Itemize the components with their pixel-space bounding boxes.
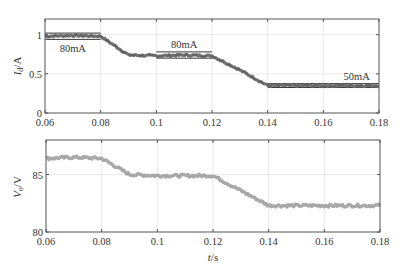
voltage-x-tick-label: 0.18 bbox=[371, 236, 389, 247]
voltage-y-axis-label: Vo/V bbox=[11, 176, 25, 198]
current-x-tick-label: 0.18 bbox=[370, 117, 388, 128]
current-panel: 0.060.080.10.120.140.160.18 00.51 80mA80… bbox=[11, 19, 388, 128]
current-band-label: 80mA bbox=[171, 39, 198, 50]
current-x-tick-label: 0.16 bbox=[314, 117, 332, 128]
current-y-tick-label: 0 bbox=[37, 108, 42, 119]
voltage-y-tick-labels: 8085 bbox=[33, 170, 44, 239]
current-y-tick-label: 1 bbox=[37, 30, 42, 41]
current-y-tick-labels: 00.51 bbox=[29, 30, 42, 119]
current-band-label: 50mA bbox=[344, 71, 371, 82]
voltage-x-tick-label: 0.12 bbox=[204, 236, 222, 247]
current-x-tick-label: 0.14 bbox=[258, 117, 277, 128]
current-x-tick-label: 0.1 bbox=[150, 117, 163, 128]
voltage-x-tick-labels: 0.060.080.10.120.140.160.18 bbox=[37, 236, 389, 247]
current-y-tick-label: 0.5 bbox=[29, 69, 42, 80]
current-band-label: 80mA bbox=[60, 43, 87, 54]
x-axis-label: t/s bbox=[208, 251, 218, 263]
current-x-tick-label: 0.12 bbox=[203, 117, 221, 128]
voltage-x-tick-label: 0.08 bbox=[92, 236, 110, 247]
voltage-panel: 0.060.080.10.120.140.160.18 8085 Vo/V t/… bbox=[11, 140, 389, 263]
voltage-grid bbox=[46, 140, 380, 232]
voltage-y-tick-label: 80 bbox=[33, 227, 44, 238]
voltage-y-tick-label: 85 bbox=[33, 170, 44, 181]
current-x-tick-label: 0.08 bbox=[91, 117, 109, 128]
voltage-x-tick-label: 0.16 bbox=[315, 236, 333, 247]
current-y-axis-label: Id/A bbox=[11, 57, 25, 77]
figure: 0.060.080.10.120.140.160.18 00.51 80mA80… bbox=[0, 0, 402, 274]
voltage-x-tick-label: 0.1 bbox=[151, 236, 164, 247]
current-x-tick-labels: 0.060.080.10.120.140.160.18 bbox=[36, 117, 388, 128]
voltage-x-tick-label: 0.14 bbox=[259, 236, 278, 247]
